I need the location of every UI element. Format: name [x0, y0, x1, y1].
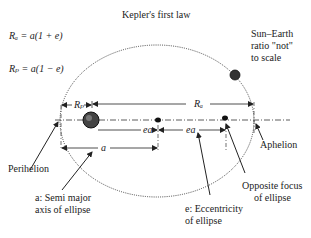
callout-eccentricity-2: of ellipse	[185, 215, 222, 227]
label-ra: Rₐ	[194, 98, 203, 110]
label-a: a	[101, 142, 106, 154]
scale-note-line1: Sun–Earth	[251, 28, 293, 40]
scale-note-line3: to scale	[251, 52, 281, 64]
diagram-title: Kepler's first law	[122, 9, 190, 21]
opposite-focus-dot	[222, 116, 228, 121]
callout-perihelion: Perihelion	[8, 163, 49, 175]
callout-eccentricity-1: e: Eccentricity	[185, 203, 243, 215]
scale-note-line2: ratio "not"	[251, 40, 293, 52]
callout-semi-major-1: a: Semi major	[35, 192, 91, 204]
callout-opposite-focus-1: Opposite focus	[242, 180, 302, 192]
callout-opposite-focus-2: of ellipse	[254, 192, 291, 204]
earth-icon	[230, 70, 240, 80]
callout-semi-major-2: axis of ellipse	[35, 204, 91, 216]
label-ea-2: ea	[186, 124, 195, 136]
label-ea-1: ea	[143, 124, 152, 136]
center-dot	[155, 118, 161, 123]
callout-aphelion: Aphelion	[260, 139, 297, 151]
label-rp: Rₚ	[74, 99, 84, 111]
formula-rp: Rₚ = a(1 − e)	[9, 63, 64, 75]
formula-ra: Rₐ = a(1 + e)	[9, 30, 63, 42]
